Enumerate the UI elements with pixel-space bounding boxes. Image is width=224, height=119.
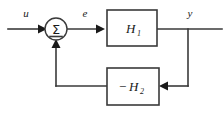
feedback-block-sign: − [119,79,126,94]
arrow-right-icon-error [96,25,105,34]
signal-label-error-e: e [83,7,88,19]
forward-block-label-base: H [125,21,136,36]
arrow-left-icon-feedback [159,82,168,91]
feedback-block-label-base: H [128,79,139,94]
feedback-block-label-subscript: 2 [140,87,144,96]
block-diagram-canvas: Σ H 1 − H 2 u e y [0,0,224,119]
signal-label-input-u: u [23,7,29,19]
forward-block-label-subscript: 1 [137,29,141,38]
sigma-icon: Σ [52,22,60,37]
signal-label-output-y: y [187,7,193,19]
block-diagram-svg: Σ H 1 − H 2 u e y [0,0,224,119]
